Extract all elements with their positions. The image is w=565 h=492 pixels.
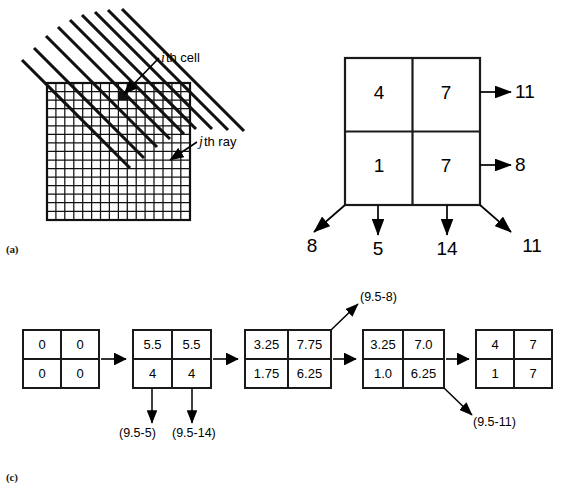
figure-root: ith cell jth ray (a)	[0, 0, 565, 492]
panel-c-graphic	[0, 275, 565, 492]
panel-b-cell-r0c1: 7	[412, 82, 480, 104]
panel-c-grid-2-r1c1: 6.25	[288, 366, 331, 381]
panel-b-grid	[345, 58, 480, 205]
panel-b-cell-r0c0: 4	[345, 82, 413, 104]
panel-c-grid-4-r1c1: 7	[514, 366, 552, 381]
panel-c-correction-col-1: (9.5-5)	[119, 426, 156, 440]
jth-ray-label: jth ray	[199, 134, 236, 150]
ith-cell-label-rest: th cell	[166, 50, 200, 65]
panel-b-diag-sum-right: 11	[512, 235, 552, 257]
panel-b-row-sum-0: 11	[515, 81, 555, 103]
panel-c-correction-col-2: (9.5-14)	[172, 426, 216, 440]
panel-c-grid-0-r1c1: 0	[61, 366, 99, 381]
ith-cell-label: ith cell	[161, 50, 200, 66]
panel-b-row-sum-1: 8	[515, 154, 555, 176]
panel-c-grid-4-r1c0: 1	[476, 366, 514, 381]
panel-c-grid-4-r0c0: 4	[476, 337, 514, 352]
panel-a: ith cell jth ray (a)	[0, 0, 290, 275]
panel-c-correction-diag-lower: (9.5-11)	[473, 415, 516, 429]
panel-c-correction-diag-upper: (9.5-8)	[360, 290, 397, 304]
panel-c-grid-3-r1c0: 1.0	[363, 366, 403, 381]
panel-b-col-sum-1: 14	[427, 238, 467, 260]
panel-c-grid-0-r0c0: 0	[23, 337, 61, 352]
panel-c-diagonal-correction-arrow-lower	[444, 388, 472, 415]
row-sum-arrows	[480, 92, 511, 165]
panel-label-c: (c)	[6, 471, 18, 483]
panel-b-diag-sum-left: 8	[292, 235, 332, 257]
panel-c: 0 0 0 0 5.5 5.5 4 4 3.25 7.75 1.75 6.25 …	[0, 275, 565, 492]
panel-c-grid-3-r0c1: 7.0	[403, 337, 444, 352]
panel-c-grid-3-r1c1: 6.25	[403, 366, 444, 381]
panel-c-grid-2-r1c0: 1.75	[245, 366, 288, 381]
panel-c-grid-1-r0c0: 5.5	[133, 337, 172, 352]
panel-b-cell-r1c0: 1	[345, 155, 413, 177]
panel-c-diagonal-correction-arrow-upper	[331, 304, 358, 330]
panel-a-graphic	[0, 0, 290, 275]
panel-c-grid-3-r0c0: 3.25	[363, 337, 403, 352]
column-sum-arrows	[378, 205, 447, 235]
panel-c-grid-4-r0c1: 7	[514, 337, 552, 352]
panel-c-grid-2-r0c0: 3.25	[245, 337, 288, 352]
panel-c-grid-0-r1c0: 0	[23, 366, 61, 381]
panel-c-grid-0-r0c1: 0	[61, 337, 99, 352]
panel-label-a: (a)	[6, 243, 18, 255]
panel-c-grid-2-r0c1: 7.75	[288, 337, 331, 352]
diagonal-sum-arrows	[314, 205, 511, 232]
panel-c-grid-1-r1c0: 4	[133, 366, 172, 381]
panel-c-grid-1-r1c1: 4	[172, 366, 211, 381]
panel-c-grid-1-r0c1: 5.5	[172, 337, 211, 352]
panel-b: 4 7 1 7 11 8 5 14 8 11 (b)	[290, 0, 565, 275]
panel-c-column-correction-arrows	[152, 388, 192, 423]
panel-b-col-sum-0: 5	[358, 238, 398, 260]
jth-ray-label-rest: th ray	[204, 134, 237, 149]
panel-b-graphic	[290, 0, 565, 275]
panel-b-cell-r1c1: 7	[412, 155, 480, 177]
